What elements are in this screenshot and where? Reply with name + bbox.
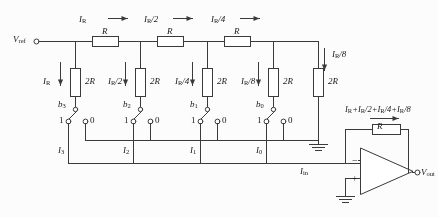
series-resistor-label-2: R xyxy=(167,27,173,36)
vout-terminal-label: Vout xyxy=(421,168,435,178)
switch-bit-label-b2: b2 xyxy=(123,100,131,110)
termination-current-label: IR/8 xyxy=(332,50,346,60)
shunt-current-label-1: IR xyxy=(43,77,50,87)
switch-one-terminal-label-b2: 1 xyxy=(124,116,129,125)
opamp-inverting-input-label: − xyxy=(352,156,358,166)
switch-zero-terminal-label-b3: 0 xyxy=(90,116,95,125)
series-current-label-2: IR/2 xyxy=(144,15,158,25)
branch-current-label-I2: I2 xyxy=(123,146,129,156)
branch-current-label-I0: I0 xyxy=(256,146,262,156)
shunt-resistor-label-1: 2R xyxy=(85,77,95,86)
series-resistor-label-1: R xyxy=(102,27,108,36)
branch-current-label-I1: I1 xyxy=(190,146,196,156)
termination-resistor-label: 2R xyxy=(328,77,338,86)
shunt-current-label-4: IR/8 xyxy=(241,77,255,87)
series-current-label-3: IR/4 xyxy=(211,15,225,25)
series-resistor-label-3: R xyxy=(234,27,240,36)
circuit-diagram-figure: Vref Vout IR IR/2 IR/4 R R R IR IR/2 IR/… xyxy=(0,0,438,217)
shunt-resistor-label-3: 2R xyxy=(217,77,227,86)
switch-zero-terminal-label-b0: 0 xyxy=(288,116,293,125)
opamp-noninverting-input-label: + xyxy=(352,174,358,184)
opamp-input-current-label: Iin xyxy=(300,167,308,177)
shunt-current-label-3: IR/4 xyxy=(175,77,189,87)
vref-terminal-label: Vref xyxy=(13,35,26,45)
switch-bit-label-b1: b1 xyxy=(190,100,198,110)
switch-one-terminal-label-b3: 1 xyxy=(59,116,64,125)
switch-zero-terminal-label-b2: 0 xyxy=(155,116,160,125)
shunt-resistor-label-2: 2R xyxy=(150,77,160,86)
series-current-label-1: IR xyxy=(79,15,86,25)
switch-bit-label-b0: b0 xyxy=(256,100,264,110)
switch-one-terminal-label-b1: 1 xyxy=(191,116,196,125)
shunt-resistor-label-4: 2R xyxy=(283,77,293,86)
switch-one-terminal-label-b0: 1 xyxy=(257,116,262,125)
branch-current-label-I3: I3 xyxy=(58,146,64,156)
shunt-current-label-2: IR/2 xyxy=(108,77,122,87)
feedback-current-label: IR+IR/2+IR/4+IR/8 xyxy=(345,105,411,115)
switch-bit-label-b3: b3 xyxy=(58,100,66,110)
switch-zero-terminal-label-b1: 0 xyxy=(222,116,227,125)
feedback-resistor-label: R xyxy=(377,122,383,131)
